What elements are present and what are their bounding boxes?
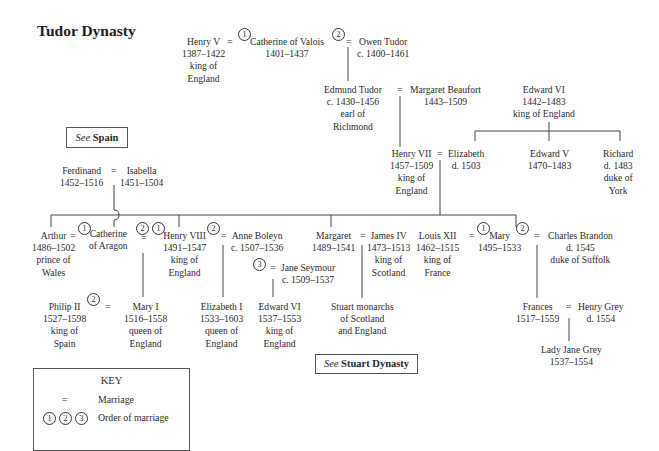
person-owen-tudor: Owen Tudor c. 1400–1461 (357, 36, 409, 60)
marriage-order-3-icon: 3 (253, 258, 266, 271)
see-spain-link[interactable]: See Spain (66, 127, 128, 148)
marriage-symbol: = (270, 262, 276, 274)
marriage-symbol: = (469, 230, 475, 242)
person-lady-jane-grey: Lady Jane Grey 1537–1554 (541, 344, 602, 368)
person-edward-iv: Edward VI 1442–1483 king of England (513, 84, 575, 121)
person-jane-seymour: Jane Seymour c. 1509–1537 (281, 262, 335, 286)
person-frances: Frances 1517–1559 (516, 301, 559, 325)
person-ferdinand: Ferdinand 1452–1516 (60, 165, 103, 189)
person-mary-i: Mary I 1516–1558 queen of England (124, 301, 167, 350)
marriage-order-2-icon: 2 (87, 293, 100, 306)
person-henry-vii: Henry VII 1457–1509 king of England (390, 148, 433, 197)
person-henry-viii: Henry VIII 1491–1547 king of England (163, 230, 206, 279)
person-catherine-of-valois: Catherine of Valois 1401–1437 (250, 36, 324, 60)
person-charles-brandon: Charles Brandon d. 1545 duke of Suffolk (548, 230, 613, 267)
person-philip-ii: Philip II 1527–1598 king of Spain (43, 301, 86, 350)
key-order-1-icon: 1 (43, 412, 56, 425)
person-louis-xii: Louis XII 1462–1515 king of France (416, 230, 459, 279)
person-arthur: Arthur 1486–1502 prince of Wales (32, 230, 75, 279)
key-marriage-symbol: = (62, 394, 68, 405)
marriage-symbol: = (105, 301, 111, 313)
person-edward-vi: Edward VI 1537–1553 king of England (258, 301, 301, 350)
key-order-label: Order of marriage (98, 412, 169, 423)
see-stuart-dynasty-link[interactable]: See Stuart Dynasty (315, 354, 418, 374)
legend-key: KEY = Marriage 1 2 3 Order of marriage (33, 368, 190, 451)
marriage-symbol: = (397, 84, 403, 96)
person-henry-v: Henry V 1387–1422 king of England (182, 36, 225, 85)
person-anne-boleyn: Anne Boleyn c. 1507–1536 (231, 230, 283, 254)
key-marriage-label: Marriage (98, 394, 134, 405)
person-mary-tudor: Mary 1495–1533 (478, 230, 521, 254)
marriage-order-2-icon: 2 (207, 222, 220, 235)
marriage-symbol: = (346, 36, 352, 48)
person-james-iv: James IV 1473–1513 king of Scotland (367, 230, 410, 279)
person-edmund-tudor: Edmund Tudor c. 1430–1456 earl of Richmo… (324, 84, 382, 133)
marriage-symbol: = (141, 232, 147, 244)
marriage-symbol: = (227, 36, 233, 48)
stuart-monarchs-note: Stuart monarchs of Scotland and England (331, 301, 394, 338)
person-margaret-tudor: Margaret 1489–1541 (312, 230, 355, 254)
marriage-symbol: = (360, 230, 366, 242)
marriage-symbol: = (111, 165, 117, 177)
key-title: KEY (34, 375, 189, 386)
marriage-order-2-icon: 2 (332, 28, 345, 41)
person-margaret-beaufort: Margaret Beaufort 1443–1509 (410, 84, 481, 108)
person-elizabeth-i: Elizabeth I 1533–1603 queen of England (200, 301, 243, 350)
person-henry-grey: Henry Grey d. 1554 (578, 301, 624, 325)
marriage-symbol: = (534, 230, 540, 242)
marriage-symbol: = (70, 230, 76, 242)
marriage-symbol: = (221, 230, 227, 242)
marriage-order-2-icon: 2 (516, 222, 529, 235)
marriage-symbol: = (566, 301, 572, 313)
key-order-2-icon: 2 (59, 412, 72, 425)
person-isabella: Isabella 1451–1504 (120, 165, 163, 189)
person-edward-v: Edward V 1470–1483 (528, 148, 571, 172)
person-elizabeth-of-york: Elizabeth d. 1503 (448, 148, 484, 172)
person-richard-duke-of-york: Richard d. 1483 duke of York (603, 148, 633, 197)
person-catherine-of-aragon: Catherine of Aragon (89, 228, 128, 252)
key-order-3-icon: 3 (75, 412, 88, 425)
marriage-symbol: = (437, 148, 443, 160)
